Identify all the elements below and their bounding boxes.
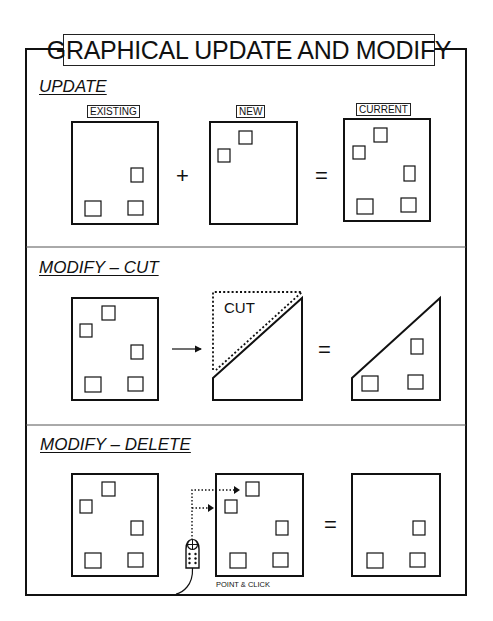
equals-operator: =	[324, 512, 337, 538]
update-current-frame	[344, 119, 430, 221]
delete-pointer-path	[192, 490, 234, 540]
cut-label: CUT	[224, 299, 255, 316]
frame-label-existing: EXISTING	[87, 105, 140, 118]
equals-operator: =	[315, 163, 328, 189]
delete-result-frame	[352, 474, 440, 576]
frame-label-new: NEW	[236, 105, 265, 118]
cut-original-frame	[72, 298, 158, 400]
delete-original-frame	[72, 474, 158, 576]
diagram-title: GRAPHICAL UPDATE AND MODIFY	[63, 34, 435, 66]
mouse-puck-icon	[176, 540, 199, 595]
delete-selection-frame	[216, 474, 303, 576]
plus-operator: +	[176, 163, 189, 189]
equals-operator: =	[318, 337, 331, 363]
cut-result-shape	[352, 298, 440, 400]
pointer-arrowhead	[234, 486, 240, 494]
update-new-frame	[210, 122, 297, 224]
section-title-delete: MODIFY – DELETE	[40, 435, 191, 455]
pointer-arrowhead	[208, 504, 214, 512]
update-existing-frame	[72, 122, 158, 224]
section-title-cut: MODIFY – CUT	[39, 258, 159, 278]
frame-label-current: CURRENT	[356, 103, 411, 116]
point-and-click-caption: POINT & CLICK	[216, 580, 270, 589]
section-title-update: UPDATE	[39, 77, 107, 97]
